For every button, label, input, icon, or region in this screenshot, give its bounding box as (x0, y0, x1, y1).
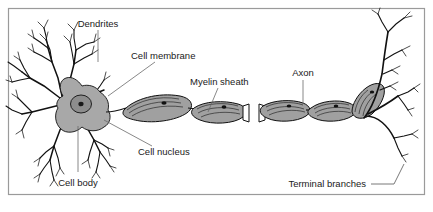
label-dendrites: Dendrites (78, 18, 119, 29)
myelin-segment-3 (260, 101, 310, 122)
neuron-diagram-figure: Dendrites Cell membrane Myelin sheath Ax… (0, 0, 433, 212)
myelin-segment-2 (192, 102, 246, 123)
label-cell-nucleus: Cell nucleus (138, 146, 190, 157)
nucleolus-dot (78, 102, 83, 107)
label-cell-body: Cell body (58, 177, 98, 188)
label-myelin-sheath: Myelin sheath (190, 76, 249, 87)
label-cell-membrane: Cell membrane (131, 50, 195, 61)
label-terminal-branches: Terminal branches (288, 178, 366, 189)
neuron-diagram-canvas: Dendrites Cell membrane Myelin sheath Ax… (0, 0, 433, 212)
label-axon: Axon (292, 67, 314, 78)
